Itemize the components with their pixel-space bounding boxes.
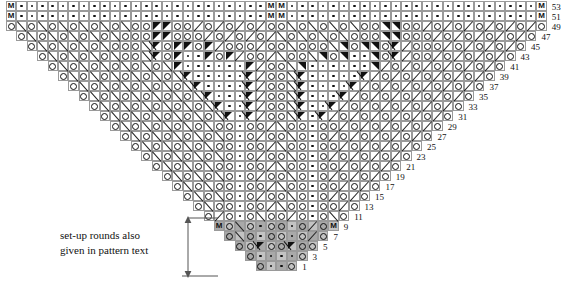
chart-cell — [224, 51, 234, 61]
chart-cell — [162, 31, 172, 41]
chart-cell — [432, 61, 442, 71]
chart-cell — [152, 91, 162, 101]
chart-cell — [422, 31, 432, 41]
row-number: 7 — [333, 232, 338, 242]
chart-cell — [204, 21, 214, 31]
chart-cell — [204, 1, 214, 11]
chart-cell — [297, 131, 307, 141]
chart-cell — [27, 41, 37, 51]
chart-cell — [152, 41, 162, 51]
chart-cell — [266, 141, 276, 151]
chart-cell — [266, 61, 276, 71]
chart-cell — [131, 51, 141, 61]
chart-cell — [308, 121, 318, 131]
chart-cell — [204, 61, 214, 71]
chart-cell — [401, 141, 411, 151]
chart-cell — [484, 1, 494, 11]
chart-cell — [58, 61, 68, 71]
chart-cell — [360, 41, 370, 51]
chart-cell — [464, 1, 474, 11]
chart-cell — [391, 21, 401, 31]
chart-cell — [391, 131, 401, 141]
chart-cell — [131, 91, 141, 101]
chart-cell — [48, 51, 58, 61]
chart-cell — [141, 111, 151, 121]
chart-cell — [172, 131, 182, 141]
chart-cell — [172, 11, 182, 21]
chart-cell — [370, 171, 380, 181]
chart-cell — [266, 171, 276, 181]
chart-cell — [391, 111, 401, 121]
chart-cell — [266, 261, 276, 271]
chart-cell — [318, 151, 328, 161]
chart-cell — [401, 71, 411, 81]
chart-cell — [245, 41, 255, 51]
chart-cell — [100, 81, 110, 91]
chart-cell — [266, 181, 276, 191]
chart-cell — [256, 101, 266, 111]
chart-cell — [276, 61, 286, 71]
chart-cell — [297, 171, 307, 181]
chart-cell — [308, 241, 318, 251]
chart-cell — [266, 91, 276, 101]
chart-cell — [495, 31, 505, 41]
chart-cell — [432, 71, 442, 81]
chart-cell — [131, 111, 141, 121]
chart-cell — [214, 181, 224, 191]
chart-cell — [380, 101, 390, 111]
chart-cell — [391, 11, 401, 21]
chart-cell — [495, 11, 505, 21]
chart-cell — [328, 151, 338, 161]
chart-cell — [183, 71, 193, 81]
chart-cell — [214, 41, 224, 51]
chart-cell — [349, 131, 359, 141]
chart-cell — [443, 91, 453, 101]
chart-cell — [214, 81, 224, 91]
chart-cell — [193, 131, 203, 141]
chart-cell — [131, 71, 141, 81]
chart-cell — [339, 11, 349, 21]
chart-cell — [214, 91, 224, 101]
chart-cell — [422, 21, 432, 31]
chart-cell — [48, 1, 58, 11]
chart-cell — [235, 231, 245, 241]
chart-cell — [318, 191, 328, 201]
chart-cell — [464, 91, 474, 101]
chart-cell — [235, 221, 245, 231]
chart-cell — [536, 1, 546, 11]
chart-cell — [495, 61, 505, 71]
chart-cell — [287, 251, 297, 261]
chart-cell — [318, 71, 328, 81]
chart-cell — [287, 101, 297, 111]
chart-cell — [432, 1, 442, 11]
chart-caption: set-up rounds also given in pattern text — [60, 228, 148, 258]
chart-cell — [422, 51, 432, 61]
chart-cell — [287, 231, 297, 241]
chart-cell — [360, 81, 370, 91]
chart-cell — [110, 21, 120, 31]
chart-cell — [266, 81, 276, 91]
chart-cell — [318, 161, 328, 171]
chart-cell — [308, 81, 318, 91]
chart-cell — [214, 111, 224, 121]
chart-cell — [131, 31, 141, 41]
chart-cell — [110, 1, 120, 11]
chart-cell — [183, 151, 193, 161]
chart-cell — [120, 51, 130, 61]
chart-cell — [412, 91, 422, 101]
chart-cell — [328, 41, 338, 51]
chart-cell — [162, 161, 172, 171]
chart-cell — [328, 1, 338, 11]
chart-cell — [318, 11, 328, 21]
chart-cell — [245, 251, 255, 261]
chart-cell — [412, 11, 422, 21]
chart-cell — [276, 111, 286, 121]
row-number: 3 — [313, 252, 318, 262]
chart-cell — [287, 61, 297, 71]
chart-cell — [58, 21, 68, 31]
chart-cell — [432, 91, 442, 101]
chart-cell — [214, 201, 224, 211]
chart-cell — [297, 251, 307, 261]
chart-cell — [328, 211, 338, 221]
chart-cell — [172, 31, 182, 41]
